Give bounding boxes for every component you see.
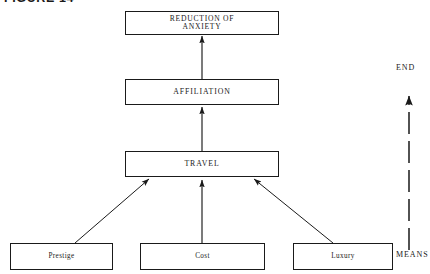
edge-luxury-to-travel — [254, 179, 333, 243]
node-luxury-label: Luxury — [331, 252, 354, 260]
node-travel-label: TRAVEL — [184, 160, 219, 169]
diagram-canvas: FIGURE 14 REDUCTION OF ANXIETY AFFILIATI… — [0, 0, 430, 274]
connector-layer — [0, 0, 430, 274]
node-prestige[interactable]: Prestige — [10, 243, 113, 270]
node-cost-label: Cost — [195, 252, 210, 260]
node-affiliation[interactable]: AFFILIATION — [125, 79, 279, 105]
axis-label-end: END — [396, 63, 415, 72]
node-goal-label: REDUCTION OF ANXIETY — [170, 15, 234, 32]
node-goal[interactable]: REDUCTION OF ANXIETY — [125, 11, 279, 35]
node-travel[interactable]: TRAVEL — [125, 151, 279, 177]
axis-label-means: MEANS — [396, 250, 429, 259]
node-affiliation-label: AFFILIATION — [173, 88, 231, 97]
figure-caption: FIGURE 14 — [4, 0, 74, 5]
node-cost[interactable]: Cost — [140, 243, 265, 270]
node-prestige-label: Prestige — [49, 252, 75, 260]
edge-prestige-to-travel — [75, 179, 149, 243]
node-luxury[interactable]: Luxury — [293, 243, 393, 270]
